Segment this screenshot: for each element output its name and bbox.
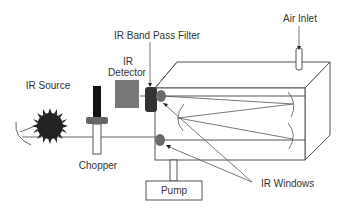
chopper-icon: [86, 86, 108, 154]
ir-source-label: IR Source: [26, 80, 70, 91]
sample-cell: [155, 62, 330, 160]
chopper-label: Chopper: [79, 160, 117, 171]
source-reflector: [16, 122, 31, 145]
ir-detector-label-line1: IR: [123, 56, 133, 67]
pump-label: Pump: [161, 185, 187, 196]
air-inlet-label: Air Inlet: [283, 13, 317, 24]
ir-source-icon: [32, 108, 68, 144]
ir-detector-icon: [115, 80, 139, 108]
ir-detector-label-line2: Detector: [108, 67, 146, 78]
air-inlet-tube: [296, 26, 302, 70]
ir-band-pass-filter-label: IR Band Pass Filter: [114, 30, 200, 41]
ir-windows-label: IR Windows: [261, 178, 314, 189]
